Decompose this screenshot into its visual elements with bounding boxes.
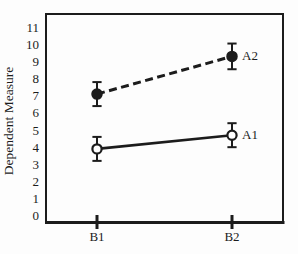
- x-tick-label: B1: [89, 229, 104, 244]
- y-tick-label: 10: [26, 37, 39, 52]
- y-tick-label: 0: [33, 208, 40, 223]
- chart-figure: Dependent Measure 01234567891011B1B2A2A1: [0, 0, 298, 254]
- line-chart: Dependent Measure 01234567891011B1B2A2A1: [0, 0, 298, 254]
- data-point-a1: [227, 131, 236, 140]
- data-point-a2: [227, 51, 237, 61]
- plot-frame: [46, 14, 283, 223]
- y-tick-label: 9: [33, 54, 40, 69]
- x-tick-label: B2: [224, 229, 239, 244]
- y-tick-label: 6: [33, 105, 40, 120]
- y-tick-label: 1: [33, 191, 40, 206]
- series-label-a2: A2: [242, 48, 258, 63]
- y-tick-label: 2: [33, 174, 40, 189]
- series-line-a1: [97, 135, 232, 149]
- data-point-a1: [92, 144, 101, 153]
- y-tick-label: 8: [33, 71, 40, 86]
- data-point-a2: [92, 89, 102, 99]
- y-tick-label: 7: [33, 88, 40, 103]
- y-tick-label: 5: [33, 123, 40, 138]
- y-tick-label: 4: [33, 140, 40, 155]
- y-tick-label: 11: [26, 20, 39, 35]
- series-label-a1: A1: [242, 127, 258, 142]
- y-tick-label: 3: [33, 157, 40, 172]
- y-axis-label: Dependent Measure: [1, 67, 16, 175]
- series-line-a2: [97, 56, 232, 94]
